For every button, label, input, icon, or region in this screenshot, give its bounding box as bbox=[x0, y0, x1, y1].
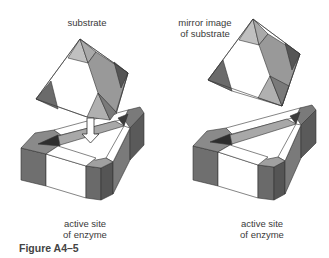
label-mirror-line2: of substrate bbox=[170, 28, 240, 39]
label-active-site-right-line2: of enzyme bbox=[227, 229, 297, 240]
label-active-site-right: active site of enzyme bbox=[227, 218, 297, 240]
label-mirror-image: mirror image of substrate bbox=[170, 17, 240, 39]
left-enzyme bbox=[21, 107, 144, 200]
label-substrate: substrate bbox=[52, 17, 122, 28]
label-active-site-left-line2: of enzyme bbox=[50, 229, 120, 240]
figure-caption: Figure A4–5 bbox=[19, 242, 79, 254]
left-substrate bbox=[36, 39, 128, 120]
label-active-site-left-line1: active site bbox=[50, 218, 120, 229]
label-mirror-line1: mirror image bbox=[170, 17, 240, 28]
right-enzyme bbox=[193, 105, 316, 200]
label-active-site-right-line1: active site bbox=[227, 218, 297, 229]
label-active-site-left: active site of enzyme bbox=[50, 218, 120, 240]
